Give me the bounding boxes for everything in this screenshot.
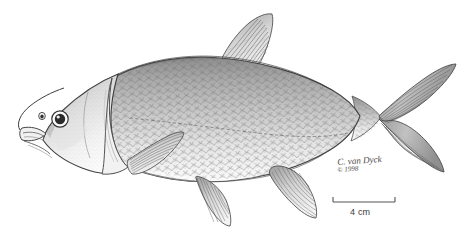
pupil xyxy=(55,114,65,124)
nostril xyxy=(39,112,46,119)
fish-drawing xyxy=(0,0,470,239)
eye-highlight xyxy=(57,115,60,118)
fish-illustration-figure: C. van Dyck © 1998 4 cm xyxy=(0,0,470,239)
eye xyxy=(52,111,68,127)
scale-bar-label: 4 cm xyxy=(350,207,370,217)
copyright-line: © 1998 xyxy=(337,165,359,174)
